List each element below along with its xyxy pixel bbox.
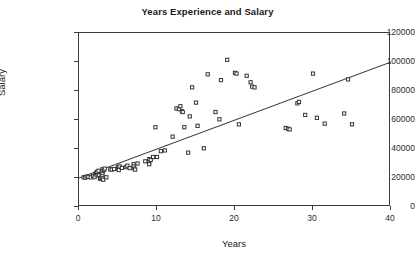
data-point — [148, 163, 151, 166]
data-point — [144, 160, 147, 163]
data-point — [202, 147, 205, 150]
data-point — [237, 123, 240, 126]
chart-title: Years Experience and Salary — [0, 6, 415, 17]
data-point — [188, 115, 191, 118]
data-point — [245, 74, 248, 77]
data-point — [103, 167, 106, 170]
plot-canvas — [79, 33, 391, 207]
y-axis-label: Salary — [0, 69, 7, 96]
data-point — [214, 110, 217, 113]
data-point — [311, 72, 314, 75]
data-point — [179, 105, 182, 108]
data-point — [120, 166, 123, 169]
data-point — [350, 123, 353, 126]
data-point — [206, 73, 209, 76]
data-point — [181, 110, 184, 113]
data-point — [196, 124, 199, 127]
x-tick-label: 20 — [214, 214, 254, 223]
data-point-markers — [82, 58, 354, 181]
x-tick-label: 30 — [292, 214, 332, 223]
data-point — [218, 118, 221, 121]
data-point — [288, 128, 291, 131]
data-point — [249, 81, 252, 84]
data-point — [297, 100, 300, 103]
data-point — [171, 135, 174, 138]
data-point — [128, 167, 131, 170]
data-point — [219, 79, 222, 82]
data-point — [134, 168, 137, 171]
trendline — [79, 62, 391, 178]
data-point — [343, 112, 346, 115]
x-tick-label: 10 — [136, 214, 176, 223]
data-point — [154, 126, 157, 129]
data-point — [191, 86, 194, 89]
data-point — [226, 58, 229, 61]
data-point — [315, 116, 318, 119]
data-point — [235, 72, 238, 75]
data-point — [253, 86, 256, 89]
x-tick-label: 0 — [58, 214, 98, 223]
data-point — [163, 149, 166, 152]
plot-area — [78, 32, 390, 206]
data-point — [347, 78, 350, 81]
x-tick-label: 40 — [370, 214, 410, 223]
data-point — [136, 162, 139, 165]
data-point — [183, 126, 186, 129]
data-point — [152, 155, 155, 158]
data-point — [155, 155, 158, 158]
data-point — [113, 167, 116, 170]
data-point — [304, 113, 307, 116]
data-point — [187, 151, 190, 154]
data-point — [105, 176, 108, 179]
chart-figure: Years Experience and Salary Salary Years… — [0, 0, 415, 278]
data-point — [159, 150, 162, 153]
data-point — [194, 101, 197, 104]
x-axis-label: Years — [78, 238, 390, 249]
data-point — [323, 122, 326, 125]
